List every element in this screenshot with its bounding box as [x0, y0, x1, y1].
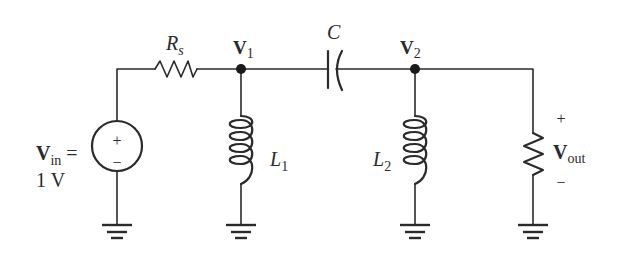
resistor-rs: [155, 61, 197, 77]
source-minus-sign: −: [112, 154, 121, 171]
source-value: 1 V: [36, 169, 66, 191]
ground-icon-load: [518, 225, 548, 238]
l2-label: L2: [372, 148, 391, 174]
capacitor-plate-curved: [337, 51, 342, 90]
resistor-load-icon: [524, 133, 543, 175]
node-v2-label: V2: [400, 37, 421, 61]
inductor-l2-icon: [404, 116, 427, 184]
wire-source-to-rs: [117, 69, 155, 121]
ground-icon-l2: [400, 225, 430, 238]
vout-minus-sign: −: [556, 174, 565, 191]
capacitor-label: C: [327, 21, 341, 43]
rs-label: Rs: [165, 32, 184, 58]
circuit-diagram: + − Vin = 1 V Rs V1 C V2 L1 L2 + Vout −: [0, 0, 618, 264]
l1-label: L1: [269, 148, 288, 174]
source-label: Vin =: [36, 142, 78, 168]
ground-icon-source: [102, 225, 132, 238]
vout-plus-sign: +: [556, 110, 565, 127]
ground-icon-l1: [226, 225, 256, 238]
source-plus-sign: +: [112, 132, 121, 149]
node-v2-dot: [410, 64, 420, 74]
vout-label: Vout: [553, 141, 585, 166]
inductor-l1-icon: [230, 116, 253, 184]
node-v1-dot: [236, 64, 246, 74]
node-v1-label: V1: [233, 37, 254, 61]
wire-v2-to-load: [415, 69, 533, 133]
